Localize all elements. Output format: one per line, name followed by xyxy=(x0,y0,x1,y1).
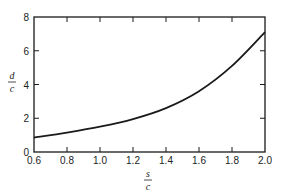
line-chart: 0.60.81.01.21.41.61.82.0 02468 d c s c xyxy=(0,0,281,195)
x-tick-label: 1.4 xyxy=(159,155,173,166)
x-tick-label: 0.6 xyxy=(27,155,41,166)
x-label-denominator: c xyxy=(146,181,151,192)
x-tick-label: 1.0 xyxy=(93,155,107,166)
y-axis-label: d c xyxy=(8,70,16,94)
y-tick-label: 8 xyxy=(23,12,29,23)
x-tick-label: 1.8 xyxy=(225,155,239,166)
y-tick-label: 4 xyxy=(23,80,29,91)
data-curve xyxy=(34,32,265,137)
x-axis-label: s c xyxy=(144,168,152,192)
x-tick-label: 1.6 xyxy=(192,155,206,166)
x-axis-ticks: 0.60.81.01.21.41.61.82.0 xyxy=(27,17,272,166)
x-tick-label: 1.2 xyxy=(126,155,140,166)
x-tick-label: 2.0 xyxy=(258,155,272,166)
x-tick-label: 0.8 xyxy=(60,155,74,166)
y-label-numerator: d xyxy=(10,70,16,81)
y-label-denominator: c xyxy=(10,83,15,94)
y-axis-ticks: 02468 xyxy=(23,12,265,158)
x-label-numerator: s xyxy=(146,168,150,179)
y-tick-label: 6 xyxy=(23,46,29,57)
y-tick-label: 0 xyxy=(23,147,29,158)
y-tick-label: 2 xyxy=(23,113,29,124)
